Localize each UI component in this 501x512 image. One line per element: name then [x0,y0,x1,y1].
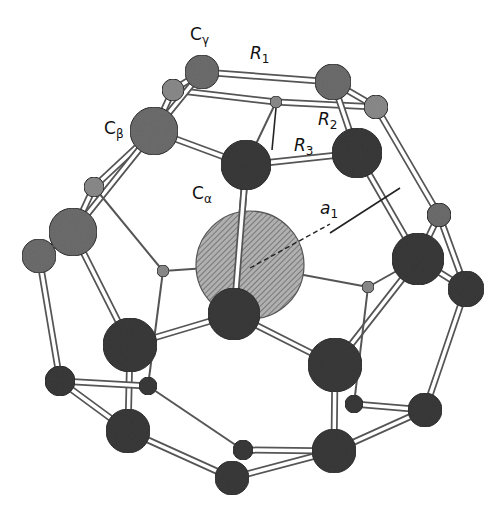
atom-top-mid-tiny [270,96,282,108]
atom-top-right-small [364,95,388,119]
bond [148,386,243,450]
atom-bottom-left-far [45,366,75,396]
atom-right-small [427,203,451,227]
atom-far-right [448,271,484,307]
atom-left-small [84,177,104,197]
atom-cbeta [130,107,178,155]
atom-right-big [392,233,444,285]
atom-bottom-center-big [215,461,249,495]
atom-center-bottom [208,288,260,340]
atom-top-left-small [162,79,184,101]
atom-bottom-right-big [312,429,356,473]
label-a1: a1 [320,200,338,220]
atom-bottom-right-tiny [345,395,363,413]
atom-left-big [49,208,97,256]
atom-lower-left-big [103,318,157,372]
atom-r3-atom [332,128,382,178]
bond [354,287,368,404]
atom-bottom-center-tiny [233,440,253,460]
atom-left-tiny [157,265,169,277]
atom-right-tiny [362,281,374,293]
atom-lower-right-big [308,338,362,392]
atom-bottom-left-big [106,409,150,453]
atom-top-right [315,64,351,100]
label-c-gamma: Cγ [190,26,209,46]
atom-bottom-right-far [408,393,442,427]
bond [94,187,163,271]
label-c-beta: Cβ [104,120,124,140]
atom-far-left [22,239,56,273]
atom-bottom-left-tiny [139,377,157,395]
bond [276,102,376,107]
label-r3: R3 [294,137,313,157]
atom-cgamma [185,55,219,89]
label-r2: R2 [318,111,337,131]
bond [39,256,60,381]
label-r1: R1 [250,45,269,65]
bond [202,72,333,82]
label-c-alpha: Cα [192,185,212,205]
bond [425,289,466,410]
atom-calpha [221,140,271,190]
clathrate-cage-diagram [0,0,501,512]
r3-guide-line [272,108,276,150]
